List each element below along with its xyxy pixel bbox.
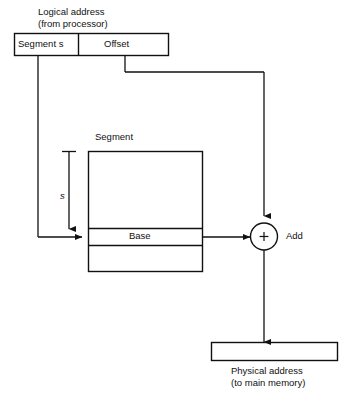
segment-table-base-label: Base [129,230,151,242]
diagram-canvas [0,0,354,403]
logical-address-caption-line2: (from processor) [38,18,108,29]
offset-field-label: Offset [104,38,129,50]
physical-address-box [212,343,338,361]
logical-address-caption: Logical address(from processor) [38,6,108,29]
physical-address-caption: Physical address(to main memory) [231,365,305,388]
segment-table-box [89,152,203,272]
segment-table-title: Segment [95,131,133,143]
segment-index-label: s [60,190,65,202]
segment-field-label: Segment s [18,38,63,50]
adder-label: Add [286,230,303,242]
physical-address-caption-line1: Physical address [231,365,303,376]
logical-address-caption-line1: Logical address [38,6,105,17]
segmentation-diagram: Logical address(from processor) Segment … [0,0,354,403]
physical-address-caption-line2: (to main memory) [231,377,305,388]
